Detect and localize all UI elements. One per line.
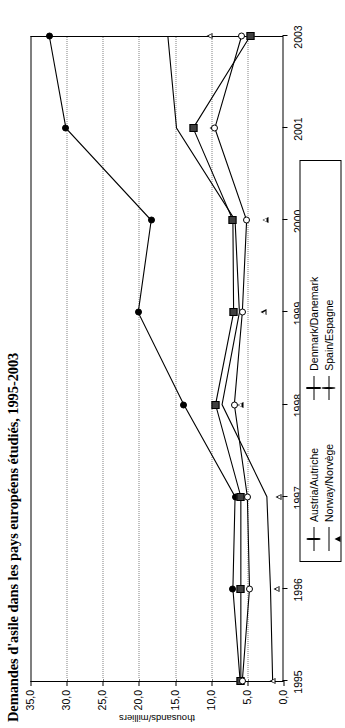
data-point-marker: [45, 33, 52, 40]
legend-label-denmark: Denmark/Danemark: [307, 277, 319, 371]
legend-entry-spain: Spain/Espagne: [322, 277, 334, 400]
series-line: [167, 36, 272, 681]
data-point-marker: [238, 309, 245, 316]
data-point-marker: [246, 585, 253, 592]
value-tick: [138, 681, 139, 686]
value-tick: [102, 681, 103, 686]
data-point-marker: [236, 585, 244, 593]
data-point-marker: [180, 401, 187, 408]
data-point-marker: [189, 124, 197, 132]
legend-swatch-norway: [323, 527, 333, 551]
legend-label-austria: Austria/Autriche: [307, 448, 319, 522]
value-tick: [247, 681, 248, 686]
data-point-marker: [262, 217, 268, 223]
value-tick: [175, 681, 176, 686]
data-point-marker: [238, 33, 245, 40]
value-tick-label: 10,0: [204, 690, 216, 726]
value-tick-label: 15,0: [168, 690, 180, 726]
square-filled-icon: [306, 387, 320, 389]
data-point-marker: [147, 217, 154, 224]
chart-legend: Austria/Autriche Norway/Norvège Denmark/…: [299, 160, 341, 562]
legend-column-2: Denmark/Danemark Spain/Espagne: [307, 277, 334, 400]
legend-entry-denmark: Denmark/Danemark: [307, 277, 319, 400]
data-point-marker: [260, 309, 266, 315]
legend-entry-austria: Austria/Autriche: [307, 444, 319, 551]
data-point-marker: [134, 309, 141, 316]
data-point-marker: [229, 308, 237, 316]
circle-open-icon: [321, 387, 335, 389]
value-tick-label: 35,0: [23, 690, 35, 726]
year-tick-label: 2003: [291, 21, 303, 53]
data-point-marker: [228, 216, 236, 224]
data-point-marker: [229, 585, 236, 592]
year-tick-label: 2001: [291, 113, 303, 145]
value-tick: [66, 681, 67, 686]
circle-filled-icon: [306, 538, 320, 540]
data-point-marker: [238, 678, 245, 685]
data-point-marker: [269, 678, 275, 684]
value-tick: [211, 681, 212, 686]
legend-swatch-spain: [323, 376, 333, 400]
series-lines: [30, 36, 283, 681]
legend-column-1: Austria/Autriche Norway/Norvège: [307, 444, 334, 551]
data-point-marker: [246, 32, 254, 40]
value-tick: [30, 681, 31, 686]
plot-area: [30, 37, 283, 682]
data-point-marker: [243, 217, 250, 224]
value-tick-label: 20,0: [131, 690, 143, 726]
legend-label-spain: Spain/Espagne: [322, 300, 334, 371]
triangle-open-icon: [322, 536, 340, 542]
data-point-marker: [211, 401, 219, 409]
year-tick-label: 1995: [291, 666, 303, 698]
data-point-marker: [273, 586, 279, 592]
value-tick-label: 25,0: [95, 690, 107, 726]
value-axis-title-text: thousands/milliers: [118, 713, 194, 724]
data-point-marker: [211, 125, 218, 132]
data-point-marker: [62, 125, 69, 132]
value-tick-label: 5,0: [240, 690, 252, 726]
chart-title: Demandes d'asile dans les pays européens…: [4, 353, 21, 722]
legend-swatch-austria: [308, 527, 318, 551]
legend-entry-norway: Norway/Norvège: [322, 444, 334, 551]
year-tick-label: 1996: [291, 574, 303, 606]
legend-swatch-denmark: [308, 376, 318, 400]
legend-label-norway: Norway/Norvège: [322, 444, 334, 522]
value-tick-label: 0,0: [276, 690, 288, 726]
value-tick-label: 30,0: [59, 690, 71, 726]
value-tick: [283, 681, 284, 686]
data-point-marker: [206, 33, 212, 39]
series-line: [49, 36, 240, 681]
rotated-chart-stage: Demandes d'asile dans les pays européens…: [0, 0, 345, 728]
data-point-marker: [243, 493, 250, 500]
data-point-marker: [230, 401, 237, 408]
data-point-marker: [275, 494, 281, 500]
